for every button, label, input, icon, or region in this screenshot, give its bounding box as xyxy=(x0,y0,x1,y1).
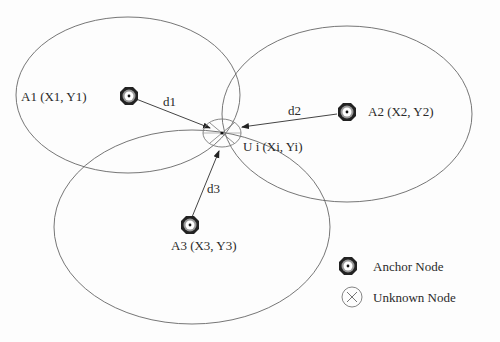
trilateration-diagram: A1 (X1, Y1) d1 A2 (X2, Y2) d2 A3 (X3, Y3… xyxy=(0,0,500,342)
anchor-a3-label: A3 (X3, Y3) xyxy=(171,238,237,253)
anchor-a1-label: A1 (X1, Y1) xyxy=(21,89,87,104)
legend-unknown-icon xyxy=(342,287,362,307)
anchor-node-a3-icon xyxy=(181,216,199,234)
distance-d3-label: d3 xyxy=(207,181,220,196)
distance-d1-label: d1 xyxy=(163,94,176,109)
legend: Anchor Node Unknown Node xyxy=(339,257,456,307)
anchor-node-a2-icon xyxy=(338,103,356,121)
anchor-node-a1-icon xyxy=(120,87,138,105)
legend-unknown-label: Unknown Node xyxy=(373,290,456,305)
anchor-a2-label: A2 (X2, Y2) xyxy=(368,104,434,119)
legend-anchor-icon xyxy=(339,257,357,275)
unknown-node xyxy=(203,119,241,147)
unknown-node-label: U i (Xi, Yi) xyxy=(243,139,302,154)
diagram-canvas: A1 (X1, Y1) d1 A2 (X2, Y2) d2 A3 (X3, Y3… xyxy=(0,0,500,342)
legend-anchor-label: Anchor Node xyxy=(373,259,444,274)
distance-d2-label: d2 xyxy=(288,103,301,118)
